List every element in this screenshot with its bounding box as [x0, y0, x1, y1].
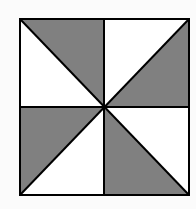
grid-lines [20, 19, 189, 195]
pinwheel-diagram [0, 0, 196, 209]
center-point [102, 105, 106, 109]
